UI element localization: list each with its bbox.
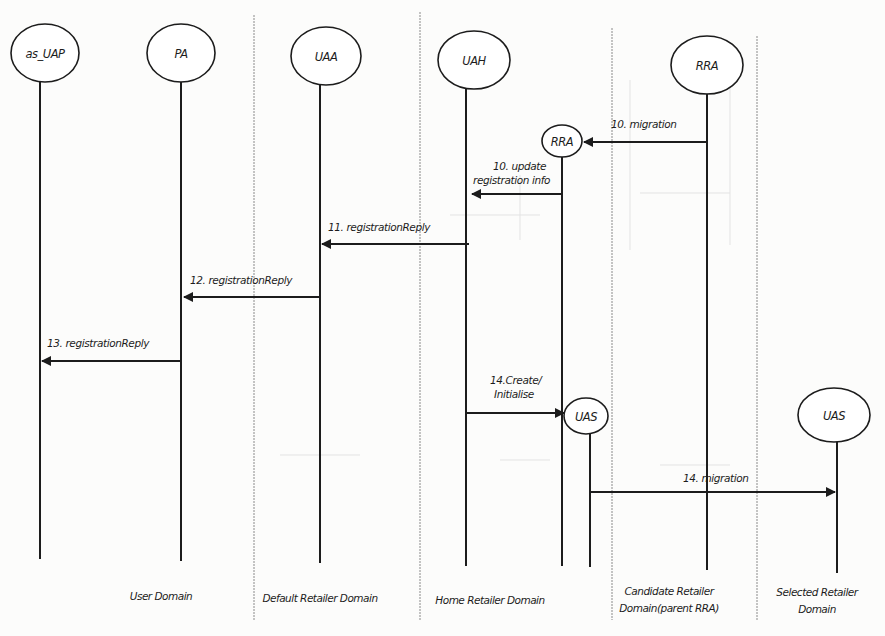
message-msg-10-migration: 10. migration <box>584 118 707 142</box>
domain-selected-retailer-domain: Selected RetailerDomain <box>776 586 858 615</box>
actor-rra_inner: RRA <box>542 125 582 157</box>
actor-label: UAS <box>823 409 845 423</box>
message-label: registration info <box>473 174 550 186</box>
actor-rra: RRA <box>671 36 743 94</box>
domain-separators <box>254 12 757 620</box>
domain-label: Candidate Retailer <box>625 585 715 597</box>
actor-uas_inner: UAS <box>564 398 608 434</box>
domain-labels: User DomainDefault Retailer DomainHome R… <box>130 585 859 615</box>
actor-label: UAH <box>462 54 486 68</box>
actor-uaa: UAA <box>291 27 361 85</box>
domain-candidate-retailer-domain: Candidate RetailerDomain(parent RRA) <box>619 585 719 614</box>
actor-label: as_UAP <box>25 47 65 61</box>
lifelines <box>40 80 837 573</box>
domain-label: Home Retailer Domain <box>435 594 544 606</box>
actor-label: UAS <box>575 410 597 424</box>
message-label: 10. update <box>493 160 546 172</box>
domain-user-domain: User Domain <box>130 590 193 602</box>
message-msg-12: 12. registrationReply <box>184 274 320 297</box>
sequence-diagram: 10. migration10. updateregistration info… <box>0 0 885 636</box>
message-label: 13. registrationReply <box>47 337 150 349</box>
message-msg-14-create: 14.Create/Initialise <box>466 374 564 413</box>
message-label: 14.Create/ <box>490 374 543 386</box>
message-label: 11. registrationReply <box>328 221 431 233</box>
actors: as_UAPPAUAAUAHRRARRAUASUAS <box>11 24 870 442</box>
actor-label: PA <box>174 47 188 61</box>
actor-pa: PA <box>147 24 215 82</box>
message-label: Initialise <box>494 388 534 400</box>
domain-label: Domain(parent RRA) <box>619 602 719 614</box>
domain-default-retailer-domain: Default Retailer Domain <box>262 592 377 604</box>
message-label: 12. registrationReply <box>190 274 293 286</box>
message-label: 14. migration <box>683 472 749 484</box>
actor-label: UAA <box>315 50 338 64</box>
actor-uah: UAH <box>438 31 510 89</box>
domain-label: Domain <box>798 603 836 615</box>
domain-home-retailer-domain: Home Retailer Domain <box>435 594 544 606</box>
message-msg-10-update: 10. updateregistration info <box>472 160 562 194</box>
domain-label: Default Retailer Domain <box>262 592 377 604</box>
messages: 10. migration10. updateregistration info… <box>42 118 835 492</box>
actor-as_uap: as_UAP <box>11 24 79 82</box>
message-msg-13: 13. registrationReply <box>42 337 181 361</box>
domain-label: User Domain <box>130 590 193 602</box>
message-label: 10. migration <box>611 118 677 130</box>
actor-uas_selected: UAS <box>798 388 870 442</box>
actor-label: RRA <box>551 135 574 149</box>
message-msg-14-migration: 14. migration <box>590 472 835 492</box>
actor-label: RRA <box>696 59 719 73</box>
message-msg-11: 11. registrationReply <box>322 221 469 244</box>
domain-label: Selected Retailer <box>776 586 858 598</box>
